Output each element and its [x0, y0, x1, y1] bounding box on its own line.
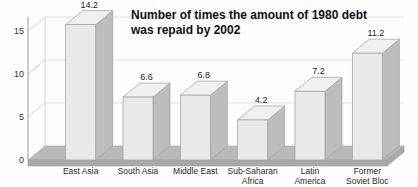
x-axis-category-label: East Asia: [63, 166, 99, 176]
y-tick-label-5: 5: [19, 112, 24, 122]
x-axis-category-label: South Asia: [118, 166, 159, 176]
bar-value-label: 6.8: [198, 70, 211, 80]
bar-value-label: 6.6: [140, 72, 153, 82]
x-axis-labels: East AsiaSouth AsiaMiddle EastSub-Sahara…: [63, 166, 389, 186]
x-axis-category-label: America: [294, 176, 325, 186]
bar-front-face: [295, 91, 325, 160]
bar-value-label: 7.2: [312, 66, 325, 76]
x-axis-category-label: Sub-Saharan: [228, 166, 278, 176]
bar-column[interactable]: 14.2: [66, 0, 113, 160]
bar-column[interactable]: 6.8: [180, 70, 227, 160]
bar-front-face: [123, 97, 153, 160]
depth-line-5: [28, 103, 45, 117]
bar-column[interactable]: 7.2: [295, 66, 342, 160]
x-axis-category-label: Latin: [301, 166, 320, 176]
bar-front-face: [66, 25, 96, 160]
bar-side-face: [325, 77, 342, 160]
chart-title: Number of times the amount of 1980 debt …: [130, 8, 367, 37]
bar-side-face: [96, 11, 113, 160]
x-axis-category-label: Former: [354, 166, 382, 176]
bar-value-label: 14.2: [80, 0, 98, 10]
bar-value-label: 11.2: [367, 28, 384, 38]
bar-front-face: [352, 53, 382, 160]
x-axis-category-label: Soviet Bloc: [346, 176, 389, 186]
y-tick-label-0: 0: [19, 155, 24, 165]
chart-container: 0 5 10 15 14.26.66.84.27.211.2 Number of…: [0, 0, 418, 187]
bar-front-face: [238, 120, 268, 160]
x-axis-category-label: Middle East: [173, 166, 218, 176]
bar-column[interactable]: 11.2: [352, 28, 399, 160]
bar-side-face: [382, 39, 399, 160]
bar-chart-3d: 0 5 10 15 14.26.66.84.27.211.2 Number of…: [0, 0, 418, 187]
bar-front-face: [180, 95, 210, 160]
x-axis-category-label: Africa: [242, 176, 264, 186]
bar-value-label: 4.2: [255, 95, 268, 105]
y-tick-label-10: 10: [14, 69, 24, 79]
chart-title-line-1: Number of times the amount of 1980 debt: [131, 8, 367, 22]
depth-line-15: [28, 17, 45, 31]
y-axis-ticks: 0 5 10 15: [14, 26, 24, 165]
bar-column[interactable]: 4.2: [238, 95, 285, 160]
depth-line-10: [28, 60, 45, 74]
y-tick-label-15: 15: [14, 26, 24, 36]
chart-title-line-2: was repaid by 2002: [130, 23, 241, 37]
bar-column[interactable]: 6.6: [123, 72, 170, 160]
